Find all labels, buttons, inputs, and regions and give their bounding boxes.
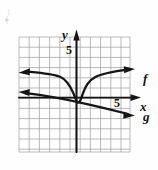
figure-canvas: y x f g 5 5 (0, 0, 158, 170)
graph-svg (0, 0, 158, 170)
x-axis-tick-label: 5 (114, 97, 120, 109)
y-axis (73, 30, 79, 153)
curve-f-label: f (143, 72, 147, 85)
scan-artifact-smudge (3, 8, 13, 26)
y-axis-tick-label: 5 (66, 44, 72, 56)
y-axis-label: y (62, 28, 68, 41)
curve-g-label: g (143, 110, 150, 123)
